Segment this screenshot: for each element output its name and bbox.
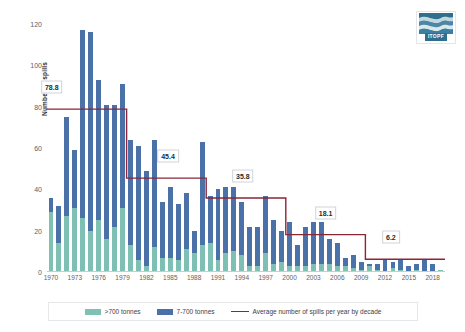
x-tick-slot: 2018 (429, 274, 437, 286)
x-tick-slot: 2012 (381, 274, 389, 286)
plot-area: Number of spills 020406080100120 78.845.… (47, 24, 445, 272)
legend-line-swatch (231, 311, 249, 312)
x-tick-slot (103, 274, 111, 286)
y-tick-label: 20 (34, 227, 42, 234)
x-tick-slot (150, 274, 158, 286)
x-axis-line (47, 271, 445, 272)
x-tick-slot: 1988 (190, 274, 198, 286)
x-tick-slot (341, 274, 349, 286)
x-tick-slot (127, 274, 135, 286)
decade-average-label: 6.2 (382, 231, 400, 244)
x-tick-slot: 1991 (214, 274, 222, 286)
x-tick-slot: 1970 (47, 274, 55, 286)
y-tick-label: 60 (34, 145, 42, 152)
x-tick-slot: 2015 (405, 274, 413, 286)
legend-color-swatch (157, 309, 173, 315)
x-tick-slot: 1994 (238, 274, 246, 286)
legend-item[interactable]: Average number of spills per year by dec… (231, 308, 382, 315)
y-tick-label: 80 (34, 103, 42, 110)
decade-average-label: 45.4 (157, 150, 179, 163)
legend-color-swatch (85, 309, 101, 315)
legend-label: 7-700 tonnes (177, 308, 215, 315)
x-tick-slot: 1997 (262, 274, 270, 286)
x-tick-slot (437, 274, 445, 286)
chart-legend: >700 tonnes7-700 tonnesAverage number of… (48, 302, 418, 321)
legend-item[interactable]: 7-700 tonnes (157, 308, 215, 315)
x-tick-slot: 2000 (286, 274, 294, 286)
x-tick-slot: 2006 (333, 274, 341, 286)
chart-page: ITOPF Number of spills 020406080100120 7… (0, 0, 465, 332)
x-tick-slot: 2003 (309, 274, 317, 286)
decade-average-label: 18.1 (315, 206, 337, 219)
x-tick-slot (246, 274, 254, 286)
x-tick-slot (198, 274, 206, 286)
x-tick-slot (270, 274, 278, 286)
y-tick-label: 40 (34, 186, 42, 193)
x-tick-slot: 1976 (95, 274, 103, 286)
y-tick-label: 0 (38, 269, 42, 276)
x-tick-slot (174, 274, 182, 286)
x-tick-slot (294, 274, 302, 286)
decade-average-label: 78.8 (41, 81, 63, 94)
x-tick-slot: 2009 (357, 274, 365, 286)
decade-average-label: 35.8 (232, 170, 254, 183)
x-tick-slot (317, 274, 325, 286)
legend-label: Average number of spills per year by dec… (253, 308, 382, 315)
y-tick-label: 120 (30, 21, 42, 28)
x-tick-slot (55, 274, 63, 286)
x-axis-ticks: 1970197319761979198219851988199119941997… (47, 274, 445, 286)
legend-label: >700 tonnes (105, 308, 141, 315)
legend-item[interactable]: >700 tonnes (85, 308, 141, 315)
x-tick-slot: 1985 (166, 274, 174, 286)
x-tick-slot: 1979 (119, 274, 127, 286)
y-tick-label: 100 (30, 62, 42, 69)
x-tick-slot (389, 274, 397, 286)
x-tick-slot (222, 274, 230, 286)
x-tick-slot: 1973 (71, 274, 79, 286)
x-tick-slot: 1982 (142, 274, 150, 286)
x-tick-slot (413, 274, 421, 286)
x-tick-slot (79, 274, 87, 286)
x-tick-slot (365, 274, 373, 286)
